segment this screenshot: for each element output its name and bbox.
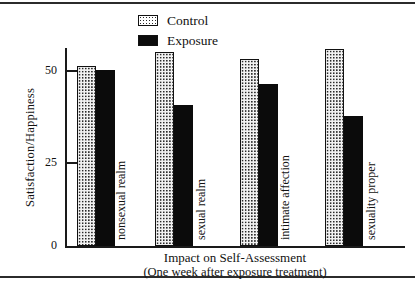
- legend-item-exposure: Exposure: [138, 32, 218, 49]
- legend-label-exposure: Exposure: [167, 34, 218, 48]
- legend-item-control: Control: [138, 12, 218, 29]
- chart-legend: Control Exposure: [138, 12, 218, 52]
- bar-exposure-nonsexual-realm: [96, 70, 115, 246]
- bar-chart-figure: Control Exposure Satisfaction/Happiness …: [0, 0, 415, 284]
- category-label-intimate-affection: intimate affection: [279, 155, 291, 240]
- bar-control-sexuality-proper: [325, 49, 344, 246]
- category-label-nonsexual-realm: nonsexual realm: [115, 161, 127, 240]
- bar-group-sexuality-proper: [325, 48, 363, 246]
- legend-swatch-exposure-icon: [138, 35, 158, 46]
- legend-swatch-control-icon: [138, 15, 158, 26]
- x-axis-subtitle: (One week after exposure treatment): [65, 265, 405, 280]
- bar-exposure-intimate-affection: [259, 84, 278, 246]
- bar-exposure-sexual-realm: [174, 105, 193, 246]
- category-label-sexuality-proper: sexuality proper: [365, 162, 377, 240]
- bar-group-intimate-affection: [240, 48, 278, 246]
- x-axis-title: Impact on Self-Assessment: [65, 250, 405, 265]
- category-label-sexual-realm: sexual realm: [195, 179, 207, 240]
- y-tick-label-25: 25: [33, 156, 57, 168]
- y-axis-title: Satisfaction/Happiness: [23, 58, 38, 238]
- plot-area: nonsexual realm sexual realm intimate af…: [67, 48, 405, 246]
- bar-control-nonsexual-realm: [77, 66, 96, 246]
- bar-control-intimate-affection: [240, 59, 259, 246]
- bar-control-sexual-realm: [155, 52, 174, 246]
- bar-group-nonsexual-realm: [77, 48, 115, 246]
- y-tick-label-0: 0: [33, 239, 57, 251]
- x-axis-caption: Impact on Self-Assessment (One week afte…: [65, 250, 405, 280]
- legend-label-control: Control: [167, 14, 208, 28]
- bar-exposure-sexuality-proper: [344, 116, 363, 246]
- bar-group-sexual-realm: [155, 48, 193, 246]
- x-axis-line: [65, 246, 405, 248]
- y-tick-label-50: 50: [33, 64, 57, 76]
- figure-top-rule: [0, 2, 415, 4]
